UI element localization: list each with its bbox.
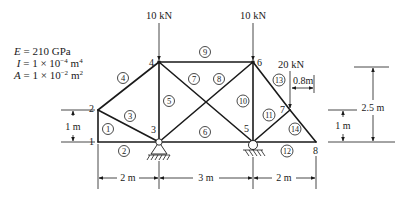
node-labels: 1 2 3 4 5 6 7 8 [89, 57, 318, 156]
svg-text:2 m: 2 m [120, 172, 136, 183]
svg-text:2 m: 2 m [276, 172, 292, 183]
element-label-13: 13 [273, 74, 285, 86]
svg-text:12: 12 [283, 147, 291, 156]
element-label-2: 2 [119, 146, 130, 157]
svg-text:2.5 m: 2.5 m [362, 102, 385, 113]
element-label-8: 8 [214, 74, 225, 85]
svg-text:3 m: 3 m [198, 172, 214, 183]
svg-text:8: 8 [217, 74, 221, 84]
svg-text:3: 3 [128, 111, 132, 121]
element-label-10: 10 [237, 95, 249, 107]
svg-text:1 m: 1 m [65, 121, 81, 132]
svg-text:9: 9 [203, 47, 207, 57]
svg-text:7: 7 [192, 74, 196, 84]
svg-text:6: 6 [203, 127, 207, 137]
svg-text:10: 10 [239, 97, 247, 106]
svg-text:14: 14 [291, 125, 299, 134]
element-label-5: 5 [164, 96, 175, 107]
node-label-4: 4 [149, 57, 154, 68]
node-label-1: 1 [89, 136, 94, 147]
svg-text:20 kN: 20 kN [278, 59, 304, 70]
element-label-12: 12 [281, 145, 293, 157]
member-4 [98, 62, 159, 110]
svg-text:13: 13 [275, 76, 283, 85]
element-label-7: 7 [189, 74, 200, 85]
truss-diagram: 10 kN 10 kN 20 kN 0.8m 1 2 3 4 5 6 7 8 1… [0, 0, 404, 200]
node-label-5: 5 [244, 123, 249, 134]
dimension-right-heights: 2.5 m 1 m [328, 67, 395, 142]
element-label-11: 11 [263, 109, 275, 121]
node-label-6: 6 [257, 57, 262, 68]
svg-text:11: 11 [265, 111, 273, 120]
element-label-6: 6 [200, 127, 211, 138]
load-node-4: 10 kN [146, 10, 172, 60]
element-label-14: 14 [289, 123, 301, 135]
node-label-2: 2 [89, 103, 94, 114]
node-label-7: 7 [280, 104, 285, 115]
load-node-6: 10 kN [240, 10, 266, 60]
svg-text:1 m: 1 m [335, 120, 351, 131]
element-label-4: 4 [118, 73, 129, 84]
svg-text:10 kN: 10 kN [240, 10, 266, 21]
element-label-1: 1 [103, 124, 114, 135]
svg-text:0.8m: 0.8m [293, 75, 314, 86]
pin-support-node-5 [243, 141, 265, 157]
element-label-9: 9 [200, 47, 211, 58]
svg-text:10 kN: 10 kN [146, 10, 172, 21]
svg-text:1: 1 [106, 124, 110, 134]
node-label-3: 3 [151, 124, 156, 135]
joint-6 [251, 60, 255, 64]
joint-4 [157, 60, 161, 64]
node-label-8: 8 [313, 145, 318, 156]
element-label-3: 3 [125, 111, 136, 122]
element-labels: 1 2 3 4 5 6 7 8 9 10 11 12 13 14 [103, 47, 302, 158]
dimension-load-offset: 0.8m [292, 75, 314, 93]
svg-text:2: 2 [122, 146, 126, 156]
svg-text:5: 5 [167, 96, 171, 106]
